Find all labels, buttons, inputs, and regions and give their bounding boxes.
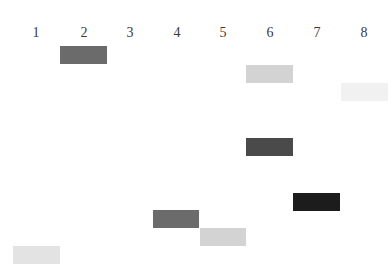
lane-label-6: 6 bbox=[260, 24, 280, 42]
lane-label-7: 7 bbox=[307, 24, 327, 42]
lane-label-2: 2 bbox=[74, 24, 94, 42]
band-lane-2 bbox=[60, 46, 107, 64]
band-lane-1 bbox=[13, 246, 60, 264]
band-lane-5 bbox=[200, 228, 246, 246]
band-lane-6 bbox=[246, 65, 293, 83]
band-lane-7 bbox=[293, 193, 340, 211]
lane-label-1: 1 bbox=[26, 24, 46, 42]
lane-label-8: 8 bbox=[354, 24, 374, 42]
band-lane-4 bbox=[153, 210, 199, 228]
band-lane-6 bbox=[246, 138, 293, 156]
lane-label-5: 5 bbox=[213, 24, 233, 42]
band-lane-8 bbox=[341, 83, 388, 101]
lane-label-4: 4 bbox=[167, 24, 187, 42]
lane-label-3: 3 bbox=[120, 24, 140, 42]
